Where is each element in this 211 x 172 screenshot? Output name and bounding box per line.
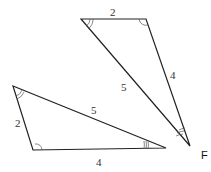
side-label: 2 [110,6,116,18]
angle-mark-single [35,144,42,150]
side-label: 5 [121,81,127,93]
side-label: 4 [96,156,102,168]
side-label: 5 [91,104,97,116]
congruent-triangles-diagram: 2 4 5 2 4 5 F [0,0,211,172]
angle-mark-double [16,90,22,96]
side-label: 4 [170,69,176,81]
side-label: 2 [15,117,21,129]
triangle-top [81,19,190,146]
figure-label: F [201,149,208,161]
angle-mark-double [87,19,91,26]
triangle-bottom [13,86,166,150]
